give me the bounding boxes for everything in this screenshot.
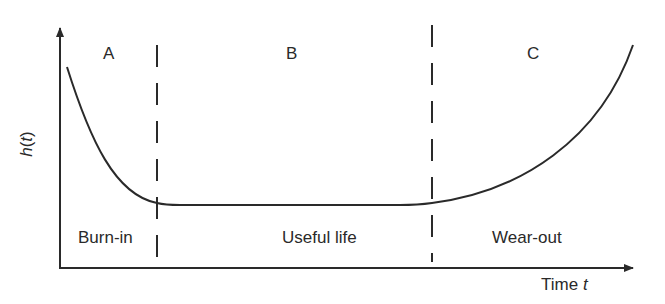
y-axis-label: h(t)	[17, 131, 37, 157]
region-a-letter: A	[103, 44, 114, 64]
bathtub-diagram	[0, 0, 665, 304]
region-b-letter: B	[286, 44, 297, 64]
region-c-letter: C	[527, 44, 539, 64]
region-b-name: Useful life	[282, 228, 357, 248]
y-axis-label-func: h	[17, 147, 36, 156]
x-axis-label-text: Time	[541, 275, 583, 294]
hazard-curve	[67, 45, 633, 205]
x-axis-label: Time t	[541, 275, 588, 295]
region-a-name: Burn-in	[78, 228, 133, 248]
x-axis-label-var: t	[583, 275, 588, 294]
y-axis-label-var: t	[17, 137, 36, 142]
region-c-name: Wear-out	[492, 228, 562, 248]
